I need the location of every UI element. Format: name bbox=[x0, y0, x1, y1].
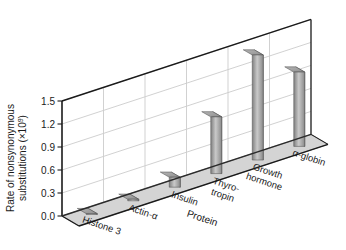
x-axis-title: Protein bbox=[186, 208, 220, 228]
bar-front-face bbox=[252, 55, 263, 160]
bar-front-face bbox=[294, 72, 305, 146]
category-label: Thyro-tropin bbox=[208, 175, 241, 205]
y-tick-label: 1.5 bbox=[41, 96, 55, 107]
y-tick-label: 0.3 bbox=[41, 188, 55, 199]
bar-chart-3d: 0.00.30.60.91.21.5 Histone 3Actin-αInsul… bbox=[0, 0, 346, 250]
y-tick-label: 1.2 bbox=[41, 119, 55, 130]
y-axis-title-line1: Rate of nonsynonymous bbox=[5, 104, 16, 212]
y-axis-title: Rate of nonsynonymoussubstitutions (×109… bbox=[5, 104, 28, 212]
y-tick-label: 0.9 bbox=[41, 142, 55, 153]
y-tick-label: 0.6 bbox=[41, 165, 55, 176]
y-axis-ticks: 0.00.30.60.91.21.5 bbox=[41, 96, 62, 222]
chart-figure: 0.00.30.60.91.21.5 Histone 3Actin-αInsul… bbox=[0, 0, 346, 250]
category-label: Insulin bbox=[170, 188, 200, 207]
y-axis-title-line2: substitutions (×109) bbox=[17, 115, 29, 201]
bar-front-face bbox=[128, 199, 139, 201]
x-axis-title-text: Protein bbox=[186, 208, 220, 228]
y-tick-label: 0.0 bbox=[41, 211, 55, 222]
category-label-line: Insulin bbox=[170, 188, 200, 207]
